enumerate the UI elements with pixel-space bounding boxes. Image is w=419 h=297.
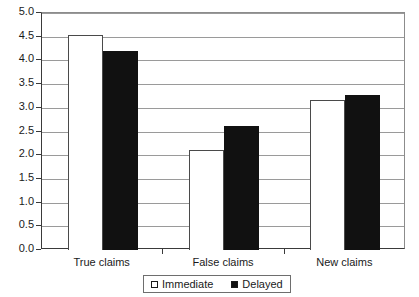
y-tick-mark (36, 59, 41, 60)
y-tick-mark (36, 154, 41, 155)
y-tick-label: 2.5 (4, 125, 34, 136)
bar-delayed-true-claims (103, 51, 138, 250)
y-tick-mark (36, 131, 41, 132)
y-tick-label: 3.0 (4, 101, 34, 112)
x-tick-mark (284, 249, 285, 254)
y-tick-label: 1.0 (4, 196, 34, 207)
legend-label: Immediate (162, 279, 213, 290)
legend-entry-delayed: Delayed (231, 279, 282, 290)
bar-immediate-new-claims (310, 100, 345, 250)
bar-chart: 0.00.51.01.52.02.53.03.54.04.55.0 True c… (0, 0, 419, 297)
open-square-icon (151, 281, 158, 288)
bar-immediate-true-claims (68, 35, 103, 250)
y-tick-mark (36, 225, 41, 226)
y-tick-label: 4.5 (4, 30, 34, 41)
bar-immediate-false-claims (189, 150, 224, 250)
legend-entry-immediate: Immediate (151, 279, 213, 290)
y-tick-label: 1.5 (4, 172, 34, 183)
y-tick-label: 4.0 (4, 53, 34, 64)
y-tick-label: 3.5 (4, 77, 34, 88)
x-category-label: True claims (42, 256, 162, 269)
y-tick-label: 0.5 (4, 219, 34, 230)
y-tick-label: 5.0 (4, 6, 34, 17)
plot-area (41, 12, 405, 249)
y-tick-mark (36, 36, 41, 37)
bar-delayed-false-claims (224, 126, 259, 250)
y-tick-label: 0.0 (4, 243, 34, 254)
bar-delayed-new-claims (345, 95, 380, 250)
gridline (42, 13, 404, 14)
legend-label: Delayed (242, 279, 282, 290)
y-tick-mark (36, 107, 41, 108)
y-tick-mark (36, 178, 41, 179)
x-category-label: New claims (284, 256, 404, 269)
chart-legend: ImmediateDelayed (143, 275, 291, 293)
y-tick-mark (36, 83, 41, 84)
y-axis: 0.00.51.01.52.02.53.03.54.04.55.0 (0, 0, 34, 297)
y-tick-label: 2.0 (4, 148, 34, 159)
x-category-label: False claims (163, 256, 283, 269)
y-tick-mark (36, 202, 41, 203)
x-tick-mark (162, 249, 163, 254)
filled-square-icon (231, 281, 238, 288)
y-tick-mark (36, 12, 41, 13)
y-tick-mark (36, 249, 41, 250)
